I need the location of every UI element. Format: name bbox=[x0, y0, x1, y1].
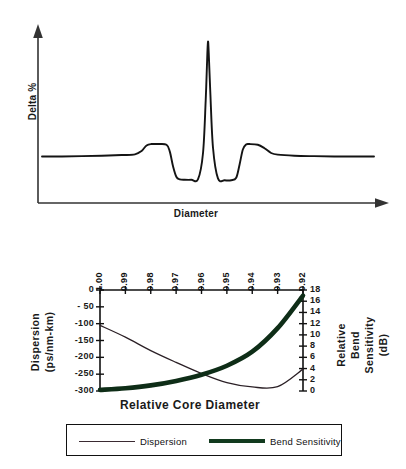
figure-page: Delta % Diameter 1.000.990.980.970.960.9… bbox=[0, 0, 406, 469]
dispersion-bend-figure: 1.000.990.980.970.960.950.940.930.92 0- … bbox=[0, 238, 406, 469]
right-tick-label: 0 bbox=[310, 385, 315, 395]
legend-item-dispersion: Dispersion bbox=[79, 432, 187, 450]
right-tick-label: 16 bbox=[310, 295, 321, 305]
profile-x-axis bbox=[38, 198, 389, 208]
left-tick-label: -200 bbox=[56, 351, 94, 361]
x-tick-label: 0.92 bbox=[297, 272, 307, 291]
chart-x-axis-title: Relative Core Diameter bbox=[80, 398, 300, 412]
right-axis-title-line4: (dB) bbox=[377, 305, 389, 385]
legend-item-bend-sensitivity: Bend Sensitivity bbox=[209, 432, 341, 450]
legend: Dispersion Bend Sensitivity bbox=[66, 424, 342, 456]
right-tick-label: 8 bbox=[310, 340, 315, 350]
right-tick-label: 14 bbox=[310, 306, 321, 316]
x-tick-label: 0.93 bbox=[272, 272, 282, 291]
x-tick-label: 0.97 bbox=[170, 272, 180, 291]
legend-swatch-bend-sensitivity bbox=[209, 439, 265, 443]
bend-sensitivity-curve bbox=[100, 296, 303, 390]
right-tick-label: 18 bbox=[310, 284, 321, 294]
left-tick-label: -150 bbox=[56, 335, 94, 345]
index-profile-plot bbox=[0, 0, 406, 238]
left-axis-title-line2: (ps/nm-km) bbox=[43, 294, 55, 390]
x-tick-label: 0.98 bbox=[145, 272, 155, 291]
x-tick-label: 0.99 bbox=[119, 272, 129, 291]
x-tick-label: 0.94 bbox=[246, 272, 256, 291]
index-profile-figure: Delta % Diameter bbox=[0, 0, 406, 238]
legend-label-dispersion: Dispersion bbox=[140, 436, 187, 447]
delta-profile-curve bbox=[42, 42, 374, 182]
right-axis-title-line3: Sensitivity bbox=[363, 305, 375, 385]
left-tick-label: 0 bbox=[56, 284, 94, 294]
profile-y-axis-label: Delta % bbox=[27, 62, 38, 142]
right-tick-label: 2 bbox=[310, 374, 315, 384]
profile-x-axis-label: Diameter bbox=[96, 208, 296, 219]
x-tick-label: 1.00 bbox=[94, 272, 104, 291]
right-tick-label: 4 bbox=[310, 363, 315, 373]
right-tick-label: 6 bbox=[310, 351, 315, 361]
x-tick-label: 0.95 bbox=[221, 272, 231, 291]
legend-swatch-dispersion bbox=[79, 441, 135, 442]
left-tick-label: - 50 bbox=[56, 301, 94, 311]
x-tick-label: 0.96 bbox=[196, 272, 206, 291]
left-tick-label: -100 bbox=[56, 318, 94, 328]
right-axis-title-line1: Relative bbox=[335, 305, 347, 385]
right-tick-label: 10 bbox=[310, 329, 321, 339]
right-axis-title-line2: Bend bbox=[349, 305, 361, 385]
left-axis-title-line1: Dispersion bbox=[29, 294, 41, 390]
left-tick-label: -250 bbox=[56, 368, 94, 378]
left-tick-label: -300 bbox=[56, 385, 94, 395]
right-tick-label: 12 bbox=[310, 318, 321, 328]
legend-label-bend-sensitivity: Bend Sensitivity bbox=[270, 436, 341, 447]
